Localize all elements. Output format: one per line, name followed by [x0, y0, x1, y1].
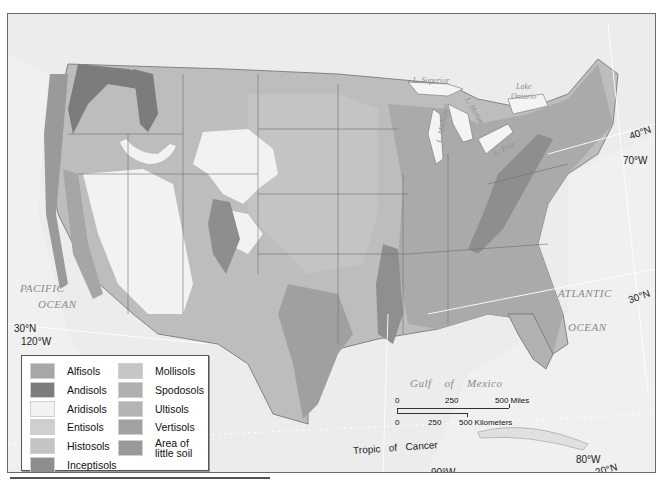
scale-km-0: 0 [395, 418, 399, 427]
longitude-90w-label: 90°W [431, 467, 456, 473]
scale-miles-250: 250 [445, 396, 458, 405]
legend-item-inceptisols: Inceptisols [30, 455, 117, 473]
atlantic-ocean-label-line1: ATLANTIC [558, 287, 612, 299]
pacific-ocean-label-line2: OCEAN [38, 298, 77, 310]
legend-item-aridisols: Aridisols [30, 399, 117, 418]
lake-ontario-label-line1: Lake [516, 82, 532, 91]
scale-miles-500: 500 Miles [495, 396, 529, 405]
gulf-of-mexico-label: Gulf of Mexico [410, 377, 502, 389]
atlantic-ocean-label-line2: OCEAN [568, 321, 607, 333]
legend-item-ultisols: Ultisols [118, 399, 210, 418]
legend-item-entisols: Entisols [30, 418, 117, 437]
legend-item-spodosols: Spodosols [118, 381, 210, 400]
ultisols-swatch [118, 401, 143, 417]
legend-column-2: Mollisols Spodosols Ultisols Vertisols A… [118, 362, 210, 459]
scale-km-250: 250 [428, 418, 441, 427]
histosols-swatch [30, 438, 55, 454]
bottom-divider [10, 477, 270, 479]
little-soil-swatch [118, 440, 143, 456]
soil-map: PACIFIC OCEAN ATLANTIC OCEAN Gulf of Mex… [7, 13, 656, 473]
inceptisols-swatch [30, 457, 55, 473]
longitude-80w-label: 80°W [576, 454, 601, 465]
scale-miles-0: 0 [395, 396, 399, 405]
legend-item-mollisols: Mollisols [118, 362, 210, 381]
scale-bar: 0 250 500 Miles 0 250 500 Kilometers [395, 396, 515, 436]
entisols-swatch [30, 419, 55, 435]
soil-legend: Alfisols Andisols Aridisols Entisols His… [21, 355, 209, 471]
lake-ontario-label-line2: Ontario [511, 92, 536, 101]
legend-item-histosols: Histosols [30, 437, 117, 456]
legend-item-vertisols: Vertisols [118, 418, 210, 437]
andisols-swatch [30, 382, 55, 398]
scale-km-500: 500 Kilometers [459, 418, 512, 427]
legend-item-alfisols: Alfisols [30, 362, 117, 381]
legend-item-andisols: Andisols [30, 381, 117, 400]
legend-item-little-soil: Area of little soil [118, 437, 210, 459]
alfisols-swatch [30, 363, 55, 379]
legend-column-1: Alfisols Andisols Aridisols Entisols His… [30, 362, 117, 473]
longitude-70w-label: 70°W [623, 155, 648, 166]
spodosols-swatch [118, 382, 143, 398]
mollisols-swatch [118, 363, 143, 379]
aridisols-swatch [30, 401, 55, 417]
pacific-ocean-label-line1: PACIFIC [20, 282, 64, 294]
vertisols-swatch [118, 419, 143, 435]
latitude-30n-west-label: 30°N [14, 323, 36, 334]
longitude-120w-label: 120°W [21, 336, 51, 347]
lake-superior-label: L. Superior [413, 76, 449, 85]
